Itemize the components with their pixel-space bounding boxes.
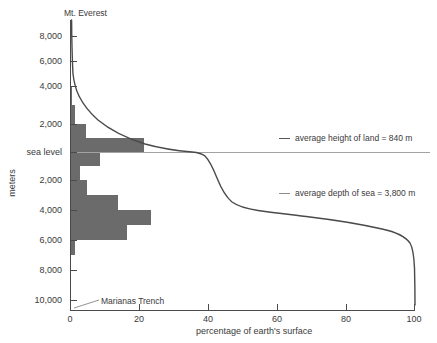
histogram-bar [70, 210, 151, 225]
x-tick-label: 80 [332, 314, 360, 324]
annotation-mt-everest: Mt. Everest [64, 8, 107, 18]
y-tick-label: 8,000 [2, 265, 62, 275]
x-axis-title: percentage of earth's surface [196, 326, 312, 336]
legend-label: average depth of sea = 3,800 m [295, 188, 415, 198]
y-tick-label: 2,000 [2, 119, 62, 129]
annotation-marianas-trench: Marianas Trench [101, 296, 164, 306]
histogram-bars [70, 86, 151, 255]
chart-canvas [0, 0, 437, 343]
x-tick-label: 20 [125, 314, 153, 324]
hypsographic-curve-chart: 8,000 6,000 4,000 2,000 sea level 2,000 … [0, 0, 437, 343]
x-tick-label: 0 [56, 314, 84, 324]
y-tick-label: 6,000 [2, 56, 62, 66]
y-tick-label-sea-level: sea level [2, 147, 62, 157]
histogram-bar [70, 152, 100, 166]
histogram-bar [70, 180, 87, 195]
histogram-bar [70, 166, 80, 180]
y-tick-label: 4,000 [2, 81, 62, 91]
legend-item-average-depth-of-sea: average depth of sea = 3,800 m [279, 188, 415, 198]
legend-item-average-height-of-land: average height of land = 840 m [279, 133, 412, 143]
histogram-bar [70, 124, 86, 138]
hypsographic-curve-path [72, 20, 416, 305]
y-tick-label: 8,000 [2, 31, 62, 41]
legend-label: average height of land = 840 m [295, 133, 412, 143]
y-tick-label: 6,000 [2, 235, 62, 245]
marianas-trench-leader-line [74, 300, 99, 308]
x-tick-label: 60 [263, 314, 291, 324]
y-tick-label: 10,000 [2, 295, 62, 305]
x-tick-label: 40 [194, 314, 222, 324]
histogram-bar [70, 195, 118, 210]
x-tick-label: 100 [400, 314, 428, 324]
legend-line-swatch-icon [279, 193, 290, 194]
legend-line-swatch-icon [279, 138, 290, 139]
y-axis-title: meters [7, 159, 17, 207]
histogram-bar [70, 225, 127, 240]
